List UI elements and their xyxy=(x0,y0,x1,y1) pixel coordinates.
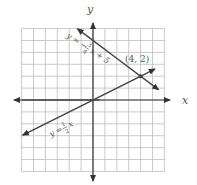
equation-label-line2: y = 1 2 x xyxy=(46,116,77,142)
svg-text:x + 5: x + 5 xyxy=(88,46,111,65)
line-y-half-x xyxy=(89,69,155,102)
y-axis-label: y xyxy=(86,3,94,16)
equation-label-line1: y = − 3 4 x + 5 xyxy=(62,28,112,68)
x-axis-label: x xyxy=(182,94,189,107)
intersection-point xyxy=(139,74,143,78)
intersection-label: (4, 2) xyxy=(125,54,149,64)
coordinate-plane: x y (4, 2) y = − 3 4 x + 5 y = 1 2 x xyxy=(0,0,197,185)
